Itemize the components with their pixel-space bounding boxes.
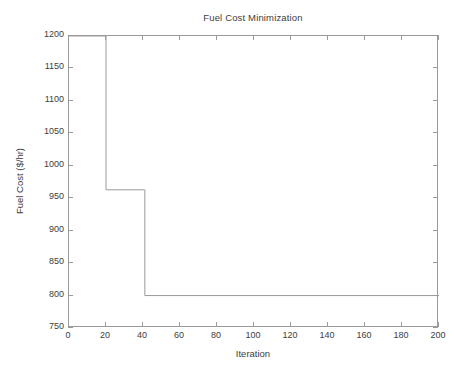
- y-tick-mark: [68, 327, 73, 328]
- x-axis-label: Iteration: [68, 348, 438, 359]
- y-tick-mark-right: [433, 230, 438, 231]
- y-tick-label: 1050: [24, 126, 64, 136]
- y-tick-label: 1000: [24, 159, 64, 169]
- x-tick-mark-top: [438, 35, 439, 40]
- y-tick-mark: [68, 100, 73, 101]
- y-tick-mark-right: [433, 262, 438, 263]
- y-tick-label: 1100: [24, 94, 64, 104]
- y-tick-label: 850: [24, 256, 64, 266]
- x-tick-mark: [401, 322, 402, 327]
- fuel-cost-step-line: [69, 36, 439, 296]
- y-tick-mark: [68, 197, 73, 198]
- y-tick-mark-right: [433, 132, 438, 133]
- x-tick-mark-top: [364, 35, 365, 40]
- x-tick-mark: [364, 322, 365, 327]
- x-tick-mark: [438, 322, 439, 327]
- x-tick-mark-top: [290, 35, 291, 40]
- x-tick-mark: [105, 322, 106, 327]
- x-tick-mark: [327, 322, 328, 327]
- y-tick-mark: [68, 67, 73, 68]
- y-tick-label: 900: [24, 224, 64, 234]
- y-tick-mark: [68, 132, 73, 133]
- y-tick-label: 1150: [24, 61, 64, 71]
- x-tick-mark: [179, 322, 180, 327]
- y-tick-mark-right: [433, 295, 438, 296]
- plot-area: [68, 35, 438, 327]
- y-tick-mark-right: [433, 327, 438, 328]
- x-tick-mark-top: [216, 35, 217, 40]
- x-tick-mark-top: [179, 35, 180, 40]
- x-tick-mark: [216, 322, 217, 327]
- y-tick-mark: [68, 230, 73, 231]
- y-tick-label: 1200: [24, 29, 64, 39]
- x-tick-label: 20: [85, 330, 125, 340]
- chart-figure: Fuel Cost Minimization 75080085090095010…: [0, 0, 468, 375]
- plot-line-svg: [69, 36, 439, 328]
- x-tick-mark: [253, 322, 254, 327]
- x-tick-label: 80: [196, 330, 236, 340]
- x-tick-label: 40: [122, 330, 162, 340]
- x-tick-label: 160: [344, 330, 384, 340]
- x-tick-mark-top: [142, 35, 143, 40]
- x-tick-label: 0: [48, 330, 88, 340]
- x-tick-mark-top: [253, 35, 254, 40]
- x-tick-label: 180: [381, 330, 421, 340]
- y-tick-mark-right: [433, 197, 438, 198]
- x-tick-mark-top: [327, 35, 328, 40]
- y-tick-mark-right: [433, 100, 438, 101]
- x-tick-label: 60: [159, 330, 199, 340]
- x-tick-mark-top: [105, 35, 106, 40]
- x-tick-label: 120: [270, 330, 310, 340]
- y-tick-mark-right: [433, 67, 438, 68]
- x-tick-mark: [68, 322, 69, 327]
- x-tick-label: 200: [418, 330, 458, 340]
- y-tick-mark: [68, 295, 73, 296]
- y-tick-mark-right: [433, 165, 438, 166]
- y-tick-mark: [68, 165, 73, 166]
- chart-title: Fuel Cost Minimization: [68, 12, 438, 23]
- x-tick-mark: [142, 322, 143, 327]
- x-tick-label: 100: [233, 330, 273, 340]
- x-tick-mark: [290, 322, 291, 327]
- x-tick-mark-top: [401, 35, 402, 40]
- x-tick-mark-top: [68, 35, 69, 40]
- x-tick-label: 140: [307, 330, 347, 340]
- y-tick-mark: [68, 262, 73, 263]
- y-tick-label: 950: [24, 191, 64, 201]
- y-axis-label: Fuel Cost ($/hr): [14, 35, 28, 327]
- y-tick-label: 800: [24, 289, 64, 299]
